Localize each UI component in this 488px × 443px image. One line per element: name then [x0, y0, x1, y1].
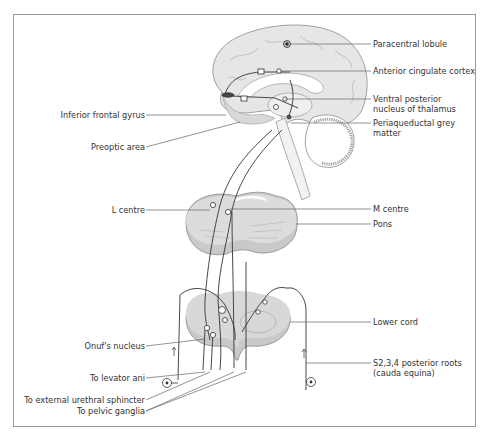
- label-to-levator-ani: To levator ani: [90, 373, 145, 383]
- label-anterior-cingulate-cortex: Anterior cingulate cortex: [373, 66, 475, 76]
- label-onufs-nucleus: Onuf's nucleus: [85, 341, 145, 351]
- label-pons: Pons: [373, 219, 392, 229]
- label-paracentral-lobule: Paracentral lobule: [373, 39, 447, 49]
- label-l-centre: L centre: [112, 205, 145, 215]
- pons-section: [186, 192, 297, 255]
- lower-cord-section: [186, 291, 290, 360]
- label-posterior-roots-line2: (cauda equina): [373, 368, 435, 378]
- label-preoptic-area: Preoptic area: [91, 142, 145, 152]
- label-ventral-posterior-line1: Ventral posterior: [373, 94, 441, 104]
- label-ventral-posterior-line2: nucleus of thalamus: [373, 104, 456, 114]
- label-periaqueductal-line1: Periaqueductal grey: [373, 118, 455, 128]
- label-inferior-frontal-gyrus: Inferior frontal gyrus: [61, 110, 145, 120]
- label-to-pelvic-ganglia: To pelvic ganglia: [77, 406, 145, 416]
- label-lower-cord: Lower cord: [373, 317, 418, 327]
- label-to-external-urethral-sphincter: To external urethral sphincter: [24, 395, 145, 405]
- label-periaqueductal-line2: matter: [373, 128, 401, 138]
- label-m-centre: M centre: [373, 204, 409, 214]
- label-posterior-roots-line1: S2,3,4 posterior roots: [373, 358, 462, 368]
